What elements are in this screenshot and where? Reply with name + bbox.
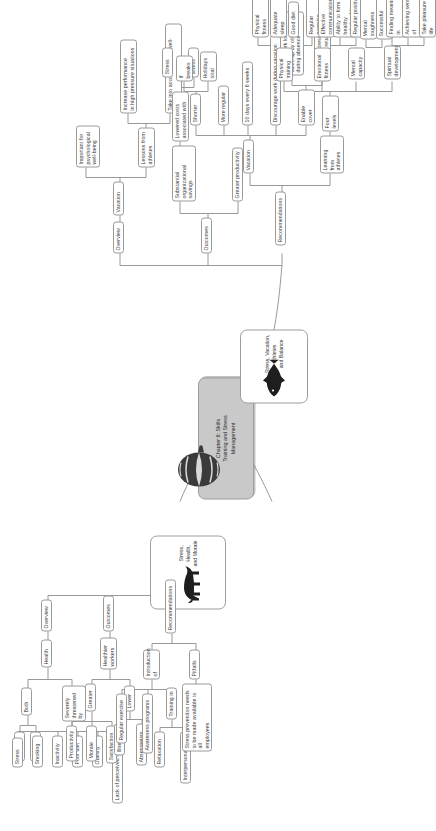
node-four-levels[interactable]: Four levels — [322, 95, 339, 131]
node-adequate-sleep[interactable]: Adequate sleep — [270, 0, 287, 37]
node-pitfalls[interactable]: Pitfalls — [189, 649, 200, 679]
node-physical-fitness[interactable]: Physical fitness — [252, 0, 269, 37]
main-topic-stress-vacation-athletes-balance-label: Stress, Vacation, Athletes and Balance — [264, 334, 284, 373]
node-if-breaks[interactable]: If breaks — [176, 55, 193, 81]
node-learning-from-athletes[interactable]: Learning from athletes — [320, 135, 344, 173]
bull-silhouette-image — [173, 564, 203, 604]
node-holidays-total[interactable]: Holidays total — [200, 51, 217, 81]
node-health-outcomes[interactable]: Outcomes — [103, 595, 114, 631]
node-increase-performance[interactable]: Increase performance in high pressure si… — [120, 39, 137, 113]
node-substantial-savings[interactable]: Substantial organizational savings — [172, 145, 196, 201]
node-both[interactable]: Both — [21, 687, 32, 715]
node-stress-prevention-note[interactable]: Stress prevention needs to be made avail… — [182, 683, 212, 751]
node-regular-exercise[interactable]: Regular exercise — [116, 693, 127, 743]
node-lowered-costs[interactable]: Lowered costs associated with — [172, 91, 189, 141]
node-emotional-fitness[interactable]: Emotional fitness — [314, 47, 331, 81]
node-training-in[interactable]: Training in — [166, 687, 177, 719]
main-topic-stress-vacation-athletes-balance[interactable]: Stress, Vacation, Athletes and Balance — [240, 329, 308, 403]
node-introduction-of[interactable]: Introduction of — [143, 649, 160, 679]
node-mental-capacity[interactable]: Mental capacity — [348, 47, 365, 79]
node-spiritual-development[interactable]: Spiritual development — [384, 45, 401, 79]
node-mental-toughness[interactable]: Mental toughness — [360, 0, 377, 39]
node-good-diet[interactable]: Good diet — [288, 1, 299, 37]
node-vac-recommendations[interactable]: Recommendations — [275, 191, 286, 245]
node-smoking[interactable]: Smoking — [32, 735, 43, 767]
node-enable-cover[interactable]: Enable cover — [298, 89, 315, 125]
node-important-psych-wellbeing[interactable]: Important for psychological well-being — [76, 125, 100, 167]
node-greater[interactable]: Greater — [85, 683, 96, 711]
node-health[interactable]: Health — [41, 639, 52, 667]
node-health-overview[interactable]: Overview — [41, 599, 52, 631]
spiral-shell-icon — [173, 445, 225, 493]
mind-map-canvas: Chapter 8: Skills Training and Stress Ma… — [0, 0, 436, 831]
main-topic-stress-health-morale-label: Stress, Health, and Morale — [178, 540, 198, 566]
node-relaxation[interactable]: Relaxation — [154, 731, 165, 767]
node-severely-threatened-by[interactable]: Severely threatened by — [62, 685, 86, 721]
node-vac-stress[interactable]: Stress — [162, 47, 173, 77]
node-lessons-from-athletes[interactable]: Lessons from athletes — [138, 127, 155, 167]
node-10-days-every-6-weeks[interactable]: 10 days every 6 weeks — [242, 61, 253, 125]
node-take-pleasure-from-life[interactable]: Take pleasure from life — [419, 0, 436, 37]
node-physical-training[interactable]: Physical training — [276, 47, 293, 81]
node-stress[interactable]: Stress — [12, 737, 23, 767]
mind-map-canvas-rotated: Chapter 8: Skills Training and Stress Ma… — [0, 0, 436, 831]
node-productivity[interactable]: Productivity — [66, 725, 77, 761]
node-vacation-rec[interactable]: Vacation — [243, 139, 254, 173]
node-awareness-programs[interactable]: Awareness programs — [142, 693, 153, 753]
node-healthier-workers[interactable]: Healthier workers — [100, 637, 117, 669]
node-vac-overview[interactable]: Overview — [113, 221, 124, 253]
node-vac-outcomes[interactable]: Outcomes — [201, 217, 212, 253]
node-inactivity[interactable]: Inactivity — [52, 735, 63, 767]
node-shorter[interactable]: Shorter — [190, 93, 201, 125]
node-health-recommendations[interactable]: Recommendations — [165, 579, 176, 633]
node-greater-productivity[interactable]: Greater productivity — [232, 147, 243, 201]
node-vacation-overview[interactable]: Vacation — [113, 181, 124, 215]
main-topic-stress-health-morale[interactable]: Stress, Health, and Morale — [150, 535, 226, 609]
node-morale[interactable]: Morale — [86, 725, 97, 761]
node-more-regular[interactable]: More regular — [218, 85, 229, 125]
